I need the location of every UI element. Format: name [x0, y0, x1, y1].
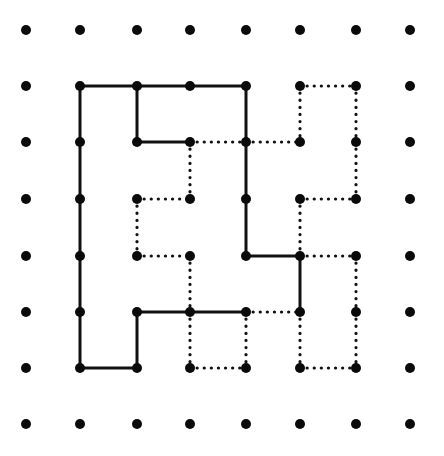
grid-dot	[132, 363, 142, 373]
grid-dot	[132, 25, 142, 35]
grid-dot	[351, 25, 361, 35]
grid-dot	[405, 363, 415, 373]
grid-dot	[75, 81, 85, 91]
grid-dot	[21, 25, 31, 35]
grid-dot	[295, 307, 305, 317]
grid-dot	[241, 419, 251, 429]
grid-dot	[21, 363, 31, 373]
grid-dot	[185, 81, 195, 91]
grid-dot	[185, 419, 195, 429]
grid-dot	[185, 251, 195, 261]
grid-dot	[21, 81, 31, 91]
grid-dot	[185, 363, 195, 373]
grid-dot	[405, 137, 415, 147]
grid-dot	[132, 81, 142, 91]
grid-dot	[295, 419, 305, 429]
grid-dot	[295, 194, 305, 204]
grid-dot	[185, 307, 195, 317]
dot-grid-diagram	[0, 0, 444, 456]
grid-dot	[405, 307, 415, 317]
grid-dot	[295, 251, 305, 261]
grid-dot	[75, 25, 85, 35]
grid-dot	[241, 363, 251, 373]
grid-dot	[75, 194, 85, 204]
grid-dot	[405, 81, 415, 91]
grid-dot	[75, 137, 85, 147]
grid-dot	[351, 251, 361, 261]
grid-dot	[21, 137, 31, 147]
grid-dot	[75, 307, 85, 317]
grid-dot	[185, 25, 195, 35]
grid-dot	[21, 251, 31, 261]
grid-dot	[295, 137, 305, 147]
grid-dot	[241, 251, 251, 261]
grid-dot	[351, 81, 361, 91]
grid-dot	[21, 194, 31, 204]
grid-dot	[132, 419, 142, 429]
grid-dot	[351, 419, 361, 429]
grid-dot	[351, 363, 361, 373]
grid-dot	[21, 307, 31, 317]
grid-dot	[351, 194, 361, 204]
grid-dot	[132, 307, 142, 317]
background	[0, 0, 444, 456]
grid-dot	[75, 251, 85, 261]
grid-dot	[132, 194, 142, 204]
grid-dot	[75, 419, 85, 429]
grid-dot	[241, 137, 251, 147]
grid-dot	[295, 25, 305, 35]
grid-dot	[241, 307, 251, 317]
grid-dot	[185, 137, 195, 147]
grid-dot	[351, 137, 361, 147]
grid-dot	[405, 194, 415, 204]
grid-dot	[241, 194, 251, 204]
grid-dot	[132, 251, 142, 261]
grid-dot	[241, 25, 251, 35]
grid-dot	[132, 137, 142, 147]
grid-dot	[21, 419, 31, 429]
grid-dot	[405, 419, 415, 429]
grid-dot	[295, 363, 305, 373]
grid-dot	[405, 25, 415, 35]
grid-dot	[351, 307, 361, 317]
grid-dot	[185, 194, 195, 204]
grid-dot	[295, 81, 305, 91]
grid-dot	[75, 363, 85, 373]
grid-dot	[241, 81, 251, 91]
grid-dot	[405, 251, 415, 261]
